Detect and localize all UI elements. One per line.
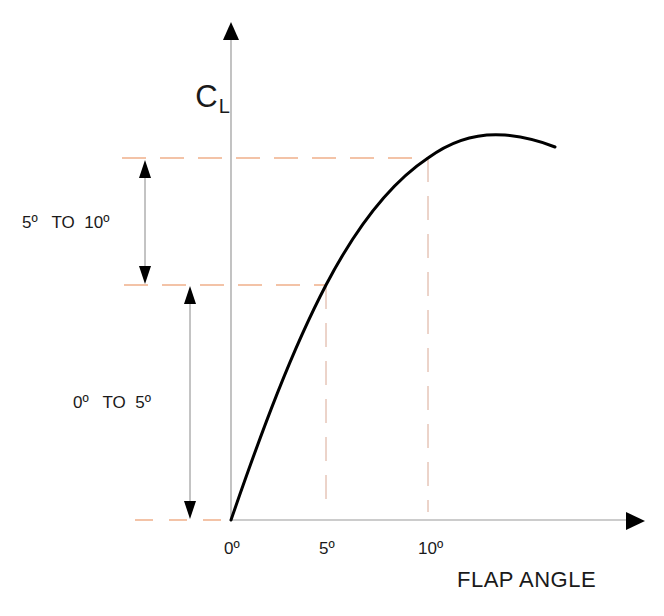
arrow-up-icon bbox=[139, 160, 151, 178]
cl-flap-angle-diagram bbox=[0, 0, 664, 616]
x-tick-0: 0º bbox=[224, 540, 240, 557]
y-axis-label-main: C bbox=[195, 79, 217, 114]
x-tick-10: 10º bbox=[418, 540, 443, 557]
arrow-down-icon bbox=[139, 266, 151, 284]
cl-curve bbox=[231, 135, 555, 520]
y-axis-label: CL bbox=[178, 50, 230, 116]
x-tick-5: 5º bbox=[319, 540, 335, 557]
range-label-0-5: 0º TO 5º bbox=[73, 394, 151, 411]
y-axis-label-subscript: L bbox=[219, 95, 230, 117]
x-axis-label: FLAP ANGLE bbox=[457, 569, 596, 591]
x-axis-arrow-icon bbox=[626, 512, 645, 530]
arrow-down-icon bbox=[184, 501, 196, 519]
range-label-5-10: 5º TO 10º bbox=[22, 214, 109, 231]
y-axis-arrow-icon bbox=[223, 22, 239, 40]
arrow-up-icon bbox=[184, 286, 196, 304]
